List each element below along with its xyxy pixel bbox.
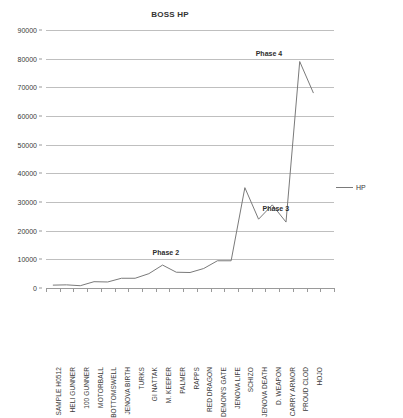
x-tick-mark [60,288,61,292]
y-tick-mark [39,259,42,260]
x-tick-label: DEMON'S GATE [220,367,227,417]
x-tick-mark [142,288,143,292]
x-tick-mark [320,288,321,292]
plot-area [46,30,334,288]
y-tick-mark [39,116,42,117]
annotation-phase-2: Phase 2 [153,249,179,256]
annotation-phase-4: Phase 4 [256,50,282,57]
x-tick-label: BOTTOMSWELL [110,367,117,418]
x-tick-mark [224,288,225,292]
x-tick-label: JENOVA DEATH [261,367,268,417]
x-tick-mark [156,288,157,292]
y-tick-mark [39,202,42,203]
y-tick-label: 30000 [18,199,37,206]
x-tick-mark [197,288,198,292]
x-tick-mark [101,288,102,292]
legend-line-swatch-icon [336,187,353,188]
y-tick-label: 60000 [18,113,37,120]
x-tick-label: SCHIZO [247,367,254,392]
y-tick-mark [39,288,42,289]
x-tick-label: GI NATTAK [151,367,158,401]
series-line-hp [46,30,334,288]
y-tick-label: 40000 [18,170,37,177]
y-tick-label: 0 [33,285,37,292]
x-tick-label: JENOVA BIRTH [124,367,131,415]
y-tick-mark [39,87,42,88]
x-tick-label: SAMPLE H0512 [55,367,62,416]
chart-title: BOSS HP [0,10,340,19]
annotation-phase-3: Phase 3 [263,205,289,212]
x-tick-mark [115,288,116,292]
x-tick-mark [252,288,253,292]
y-tick-mark [39,58,42,59]
y-axis: 0100002000030000400005000060000700008000… [0,30,42,288]
y-tick-label: 10000 [18,256,37,263]
x-tick-label: CARRY ARMOR [289,367,296,416]
x-tick-label: TURKS [138,367,145,390]
x-tick-label: M. KEEPER [165,367,172,403]
x-tick-label: MOTORBALL [97,367,104,408]
y-tick-mark [39,230,42,231]
x-tick-mark [307,288,308,292]
x-tick-label: HELI GUNNER [69,367,76,413]
x-tick-mark [73,288,74,292]
y-tick-label: 70000 [18,84,37,91]
y-tick-label: 50000 [18,141,37,148]
x-tick-mark [87,288,88,292]
x-tick-mark [293,288,294,292]
x-tick-label: JENOVA LIFE [234,367,241,409]
y-tick-label: 90000 [18,27,37,34]
series-polyline-hp [53,62,314,286]
x-axis-ticks [46,288,334,292]
x-tick-mark [265,288,266,292]
legend-label-hp: HP [356,184,366,191]
chart-legend: HP [336,184,366,191]
x-tick-mark [211,288,212,292]
x-tick-mark [238,288,239,292]
x-tick-label: 100 GUNNER [83,367,90,409]
x-tick-mark [334,288,335,292]
x-tick-label: HOJO [316,367,323,385]
x-axis: SAMPLE H0512HELI GUNNER100 GUNNERMOTORBA… [46,293,334,369]
y-tick-mark [39,30,42,31]
x-tick-label: PROUD CLOD [302,367,309,411]
y-tick-label: 80000 [18,55,37,62]
x-tick-label: PALMER [179,367,186,394]
y-tick-mark [39,173,42,174]
x-tick-label: D. WEAPON [275,367,282,405]
y-tick-mark [39,144,42,145]
x-tick-mark [46,288,47,292]
x-tick-label: RED DRAGON [206,367,213,412]
x-tick-mark [169,288,170,292]
y-tick-label: 20000 [18,227,37,234]
x-tick-label: RAPPS [193,367,200,390]
x-tick-mark [279,288,280,292]
x-tick-mark [183,288,184,292]
x-tick-mark [128,288,129,292]
